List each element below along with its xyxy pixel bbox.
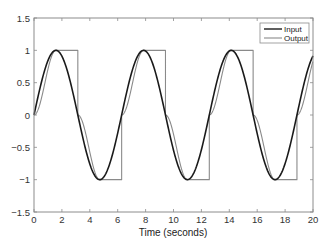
x-tick-label: 6: [115, 214, 120, 225]
y-tick-label: 1: [25, 45, 30, 56]
x-tick-label: 4: [87, 214, 92, 225]
y-tick-label: −1.5: [11, 207, 30, 218]
line-chart: 02468101214161820−1.5−1−0.500.511.5 Inpu…: [0, 0, 329, 246]
axes-box: [34, 18, 313, 212]
x-axis-label: Time (seconds): [139, 227, 208, 238]
y-tick-label: −0.5: [11, 142, 30, 153]
axis-ticks: 02468101214161820−1.5−1−0.500.511.5: [11, 13, 318, 226]
x-tick-label: 10: [168, 214, 179, 225]
x-tick-label: 16: [252, 214, 263, 225]
plot-area: [34, 50, 313, 179]
y-tick-label: 0: [25, 110, 30, 121]
legend-output-label: Output: [284, 34, 309, 43]
legend-input-label: Input: [284, 25, 303, 34]
y-tick-label: −1: [19, 174, 30, 185]
output-line: [34, 50, 313, 179]
x-tick-label: 2: [59, 214, 64, 225]
x-tick-label: 20: [308, 214, 319, 225]
y-tick-label: 0.5: [17, 77, 30, 88]
input-line: [34, 50, 313, 179]
x-tick-label: 18: [280, 214, 291, 225]
x-tick-label: 0: [31, 214, 36, 225]
x-tick-label: 8: [143, 214, 148, 225]
legend: Input Output: [260, 23, 309, 43]
x-tick-label: 12: [196, 214, 207, 225]
y-tick-label: 1.5: [17, 13, 30, 24]
x-tick-label: 14: [224, 214, 235, 225]
